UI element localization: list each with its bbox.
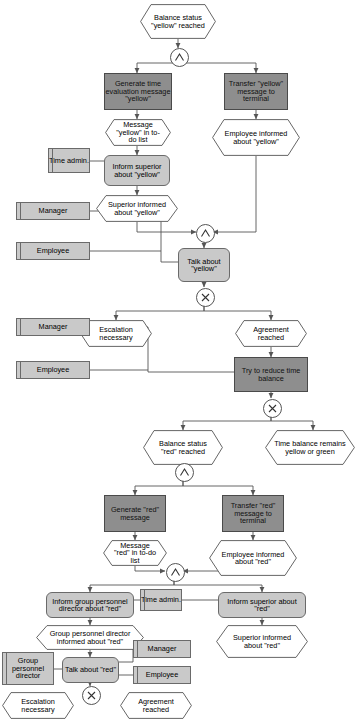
org-unit-manager-2[interactable]: Manager [16,318,90,336]
org-unit-employee-2[interactable]: Employee [16,361,90,379]
event-label: Agreement reached [235,326,307,341]
org-unit-manager-1[interactable]: Manager [16,202,90,220]
event-superior-informed-about-red[interactable]: Superior informed about "red" [216,625,308,658]
operator-and-4[interactable] [166,563,185,582]
event-balance-status-red[interactable]: Balance status "red" reached [143,430,223,465]
event-label: Superior informed about "red" [216,634,308,649]
event-escalation-necessary-1[interactable]: Escalation necessary [80,320,152,347]
org-unit-employee-1[interactable]: Employee [16,242,90,260]
function-try-to-reduce-time-balance[interactable]: Try to reduce time balance [234,357,308,392]
operator-xor-1[interactable] [196,288,215,307]
operator-xor-3[interactable] [82,686,101,705]
org-unit-employee-3[interactable]: Employee [133,666,191,684]
function-talk-about-red[interactable]: Talk about "red" [62,657,119,683]
function-inform-group-personnel-director-about-red[interactable]: Inform group personnel director about "r… [46,592,134,618]
event-label: Group personnel director informed about … [36,630,144,645]
function-label: Generate "red" message [105,506,165,521]
operator-and-3[interactable] [175,463,194,482]
operator-and-2[interactable] [196,224,215,243]
org-label: Manager [39,323,68,330]
function-label: Talk about "red" [65,666,116,673]
event-label: Employee informed about "red" [209,551,297,566]
event-label: Escalation necessary [80,326,152,341]
event-message-red-in-todo-list[interactable]: Message "red" in to-do list [103,540,167,566]
org-unit-time-admin-1[interactable]: Time admin. [48,148,90,173]
function-label: Generate time evaluation message "yellow… [105,80,171,102]
event-label: Agreement reached [120,698,192,713]
org-label: Employee [37,366,69,373]
event-message-yellow-in-todo-list[interactable]: Message "yellow" in to-do list [105,119,171,146]
org-unit-time-admin-2[interactable]: Time admin. [140,589,182,611]
org-label: Time admin. [141,596,181,603]
event-label: Time balance remains yellow or green [265,440,355,455]
event-balance-status-yellow[interactable]: Balance status "yellow" reached [140,4,216,39]
operator-xor-2[interactable] [263,399,282,418]
org-label: Employee [146,671,178,678]
org-label: Group personnel director [3,657,53,679]
event-label: Superior informed about "yellow" [96,201,178,216]
org-label: Manager [148,645,177,652]
org-unit-manager-3[interactable]: Manager [133,640,191,658]
event-agreement-reached-2[interactable]: Agreement reached [120,692,192,719]
event-label: Balance status "red" reached [143,440,223,455]
event-employee-informed-about-red[interactable]: Employee informed about "red" [209,540,297,576]
org-label: Time admin. [49,157,89,164]
event-label: Employee informed about "yellow" [212,130,300,145]
function-label: Transfer "red" message to terminal [223,502,283,524]
function-label: Talk about "yellow" [179,258,229,273]
event-superior-informed-about-yellow[interactable]: Superior informed about "yellow" [96,195,178,222]
function-transfer-red-message-to-terminal[interactable]: Transfer "red" message to terminal [222,495,284,532]
event-label: Message "yellow" in to-do list [105,121,171,143]
event-group-personnel-director-informed-about-red[interactable]: Group personnel director informed about … [36,625,144,650]
event-time-balance-remains-yellow-or-green[interactable]: Time balance remains yellow or green [265,430,355,465]
event-label: Balance status "yellow" reached [140,14,216,29]
function-talk-about-yellow[interactable]: Talk about "yellow" [178,248,230,282]
function-generate-red-message[interactable]: Generate "red" message [104,495,166,532]
operator-and-1[interactable] [170,48,189,67]
function-label: Try to reduce time balance [235,367,307,382]
event-label: Escalation necessary [2,698,74,713]
function-generate-time-evaluation-message-yellow[interactable]: Generate time evaluation message "yellow… [104,73,172,110]
org-label: Employee [37,247,69,254]
event-agreement-reached-1[interactable]: Agreement reached [235,320,307,347]
function-label: Inform superior about "red" [219,598,305,613]
function-label: Transfer "yellow" message to terminal [225,80,287,102]
function-label: Inform superior about "yellow" [105,163,169,178]
function-inform-superior-about-red[interactable]: Inform superior about "red" [218,592,306,618]
event-escalation-necessary-2[interactable]: Escalation necessary [2,692,74,719]
event-employee-informed-about-yellow[interactable]: Employee informed about "yellow" [212,119,300,156]
org-label: Manager [39,207,68,214]
function-transfer-yellow-message-to-terminal[interactable]: Transfer "yellow" message to terminal [224,73,288,110]
event-label: Message "red" in to-do list [103,542,167,564]
function-inform-superior-about-yellow[interactable]: Inform superior about "yellow" [104,155,170,186]
org-unit-group-personnel-director[interactable]: Group personnel director [2,652,54,685]
function-label: Inform group personnel director about "r… [47,598,133,613]
